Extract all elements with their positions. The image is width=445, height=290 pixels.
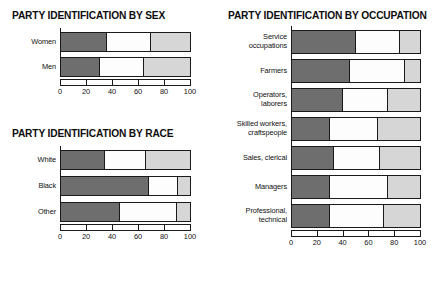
x-axis-tick-label: 20 [313, 238, 321, 247]
bar-row: Men [8, 57, 191, 77]
bar-segment-independent [107, 33, 151, 51]
y-axis-line [291, 26, 292, 228]
bar-segment-democrat [292, 118, 330, 140]
bar-segment-independent [100, 58, 144, 76]
plot-area-by-race: WhiteBlackOther020406080100 [8, 150, 223, 270]
bar-segment-democrat [61, 203, 120, 221]
x-axis-tick-label: 0 [58, 87, 62, 96]
bar-segment-democrat [61, 151, 105, 169]
category-label: Managers [228, 183, 291, 192]
bar-row: Operators, laborers [228, 88, 421, 112]
x-axis-tick [60, 224, 61, 231]
category-label: Women [8, 38, 60, 47]
bar-segment-republican [178, 177, 190, 195]
category-label: Other [8, 208, 60, 217]
stacked-bar [291, 59, 421, 83]
chart-title-by-sex: PARTY IDENTIFICATION BY SEX [12, 10, 165, 22]
x-axis-tick [368, 230, 369, 237]
x-axis: 020406080100 [60, 224, 191, 242]
bar-segment-republican [380, 147, 420, 169]
x-axis-tick [394, 230, 395, 237]
bar-segment-democrat [61, 33, 107, 51]
bar-segment-democrat [292, 31, 356, 53]
bar-row: Black [8, 176, 191, 196]
bar-segment-independent [330, 176, 388, 198]
stacked-bar [60, 202, 191, 222]
bar-row: Farmers [228, 59, 421, 83]
bar-segment-independent [356, 31, 400, 53]
x-axis-tick-label: 0 [58, 232, 62, 241]
category-label: Professional, technical [228, 207, 291, 224]
bar-segment-independent [149, 177, 179, 195]
x-axis-line-top [60, 79, 191, 80]
stacked-bar [60, 150, 191, 170]
x-axis-tick [86, 79, 87, 86]
bar-segment-democrat [292, 147, 334, 169]
x-axis-tick [86, 224, 87, 231]
stacked-bar [291, 30, 421, 54]
bar-segment-republican [146, 151, 190, 169]
x-axis-tick-label: 80 [160, 87, 168, 96]
x-axis-tick-label: 40 [108, 232, 116, 241]
x-axis-line-top [60, 224, 191, 225]
stacked-bar [60, 176, 191, 196]
bar-segment-independent [330, 118, 377, 140]
y-axis-line [60, 146, 61, 222]
x-axis-line-bottom [60, 230, 191, 231]
stacked-bar [291, 175, 421, 199]
stacked-bar [60, 57, 191, 77]
x-axis-tick [291, 230, 292, 237]
bar-segment-independent [334, 147, 380, 169]
category-label: Black [8, 182, 60, 191]
bar-row: Women [8, 32, 191, 52]
bar-row: Service occupations [228, 30, 421, 54]
chart-title-by-occupation: PARTY IDENTIFICATION BY OCCUPATION [228, 10, 427, 22]
bar-segment-independent [120, 203, 177, 221]
x-axis-tick-label: 100 [414, 238, 426, 247]
bar-row: Professional, technical [228, 204, 421, 228]
bar-segment-independent [350, 60, 405, 82]
bar-segment-republican [400, 31, 420, 53]
bar-segment-independent [343, 89, 388, 111]
x-axis-tick [138, 224, 139, 231]
bar-segment-republican [388, 176, 420, 198]
chart-panel-by-race: PARTY IDENTIFICATION BY RACE WhiteBlackO… [8, 128, 223, 278]
bar-segment-republican [388, 89, 420, 111]
stacked-bar [291, 88, 421, 112]
category-label: Farmers [228, 67, 291, 76]
bar-row: Sales, clerical [228, 146, 421, 170]
figure-root: PARTY IDENTIFICATION BY SEX WomenMen0204… [0, 0, 445, 290]
category-label: Sales, clerical [228, 154, 291, 163]
bar-segment-democrat [61, 177, 149, 195]
x-axis-tick [112, 79, 113, 86]
bar-segment-democrat [292, 60, 350, 82]
plot-area-by-occupation: Service occupationsFarmersOperators, lab… [228, 30, 443, 282]
x-axis-tick-label: 60 [364, 238, 372, 247]
x-axis-tick-label: 100 [184, 232, 196, 241]
category-label: White [8, 156, 60, 165]
x-axis-tick-label: 20 [82, 87, 90, 96]
x-axis-tick [164, 224, 165, 231]
bar-segment-democrat [292, 205, 330, 227]
chart-panel-by-occupation: PARTY IDENTIFICATION BY OCCUPATION Servi… [228, 10, 443, 285]
x-axis: 020406080100 [60, 79, 191, 97]
bar-row: Other [8, 202, 191, 222]
x-axis-line-top [291, 230, 421, 231]
chart-title-by-race: PARTY IDENTIFICATION BY RACE [12, 128, 173, 140]
x-axis-tick-label: 80 [390, 238, 398, 247]
bar-segment-democrat [61, 58, 100, 76]
bar-row: White [8, 150, 191, 170]
stacked-bar [291, 117, 421, 141]
bar-segment-democrat [292, 176, 330, 198]
bar-segment-republican [144, 58, 190, 76]
y-axis-line [60, 28, 61, 77]
x-axis-tick-label: 60 [134, 87, 142, 96]
x-axis-tick-label: 40 [338, 238, 346, 247]
x-axis: 020406080100 [291, 230, 421, 248]
x-axis-line-bottom [60, 85, 191, 86]
x-axis-tick [190, 224, 191, 231]
x-axis-tick [343, 230, 344, 237]
stacked-bar [291, 146, 421, 170]
x-axis-tick-label: 40 [108, 87, 116, 96]
x-axis-tick [164, 79, 165, 86]
